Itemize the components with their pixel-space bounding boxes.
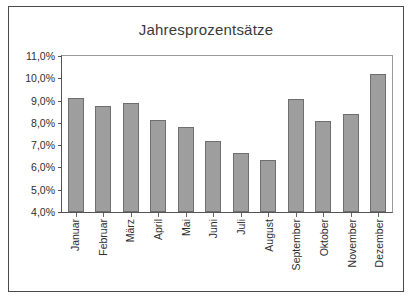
bar-slot xyxy=(90,56,118,212)
y-axis-tick-label: 8,0% xyxy=(31,117,62,129)
x-axis-label-juli: Juli xyxy=(235,219,247,235)
x-label-slot: Mai xyxy=(172,217,200,291)
bar-september[interactable] xyxy=(288,99,304,212)
bar-slot xyxy=(117,56,145,212)
bar-juli[interactable] xyxy=(233,153,249,212)
x-axis-label-august: August xyxy=(263,219,275,252)
plot-area: 11,0% 10,0% 9,0% 8,0% 7,0% 6,0% 5,0% 4,0… xyxy=(61,55,393,213)
y-axis-tick-label: 6,0% xyxy=(31,161,62,173)
y-axis-tick-label: 11,0% xyxy=(26,50,62,62)
x-axis-label-maerz: März xyxy=(124,219,136,242)
bar-slot xyxy=(310,56,338,212)
bar-slot xyxy=(172,56,200,212)
bar-slot xyxy=(337,56,365,212)
y-axis-tick-label: 10,0% xyxy=(25,72,62,84)
chart-title: Jahresprozentsätze xyxy=(9,21,403,38)
bar-april[interactable] xyxy=(150,120,166,212)
x-label-slot: März xyxy=(116,217,144,291)
bar-juni[interactable] xyxy=(205,141,221,212)
x-label-slot: Februar xyxy=(89,217,117,291)
chart-frame: Jahresprozentsätze 11,0% 10,0% 9,0% 8,0%… xyxy=(8,6,404,292)
x-axis-label-oktober: Oktober xyxy=(318,219,330,256)
y-axis-tick-label: 9,0% xyxy=(31,95,62,107)
bar-slot xyxy=(255,56,283,212)
y-axis-tick-label: 5,0% xyxy=(31,184,62,196)
bar-mai[interactable] xyxy=(178,127,194,212)
bar-slot xyxy=(227,56,255,212)
y-axis-tick-label: 7,0% xyxy=(31,139,62,151)
x-label-slot: Juni xyxy=(199,217,227,291)
x-axis-labels: Januar Februar März April Mai Juni Juli … xyxy=(61,217,393,291)
bar-januar[interactable] xyxy=(68,98,84,212)
x-axis-label-september: September xyxy=(290,219,302,270)
x-axis-label-februar: Februar xyxy=(97,219,109,256)
bar-maerz[interactable] xyxy=(123,103,139,212)
x-axis-label-november: November xyxy=(346,219,358,267)
x-axis-label-juni: Juni xyxy=(207,219,219,238)
bar-oktober[interactable] xyxy=(315,121,331,212)
bar-slot xyxy=(62,56,90,212)
x-label-slot: August xyxy=(255,217,283,291)
bar-februar[interactable] xyxy=(95,106,111,212)
bar-slot xyxy=(365,56,393,212)
x-axis-label-april: April xyxy=(152,219,164,240)
bar-slot xyxy=(282,56,310,212)
x-label-slot: April xyxy=(144,217,172,291)
x-label-slot: Juli xyxy=(227,217,255,291)
bar-november[interactable] xyxy=(343,114,359,212)
x-label-slot: September xyxy=(282,217,310,291)
x-axis-label-januar: Januar xyxy=(69,219,81,251)
x-label-slot: November xyxy=(338,217,366,291)
y-axis-tick-label: 4,0% xyxy=(31,206,62,218)
bar-dezember[interactable] xyxy=(370,74,386,212)
x-label-slot: Oktober xyxy=(310,217,338,291)
x-axis-label-dezember: Dezember xyxy=(373,219,385,267)
x-label-slot: Januar xyxy=(61,217,89,291)
x-label-slot: Dezember xyxy=(365,217,393,291)
bar-series xyxy=(62,56,392,212)
bar-august[interactable] xyxy=(260,160,276,212)
x-axis-label-mai: Mai xyxy=(180,219,192,236)
bar-slot xyxy=(145,56,173,212)
bar-slot xyxy=(200,56,228,212)
